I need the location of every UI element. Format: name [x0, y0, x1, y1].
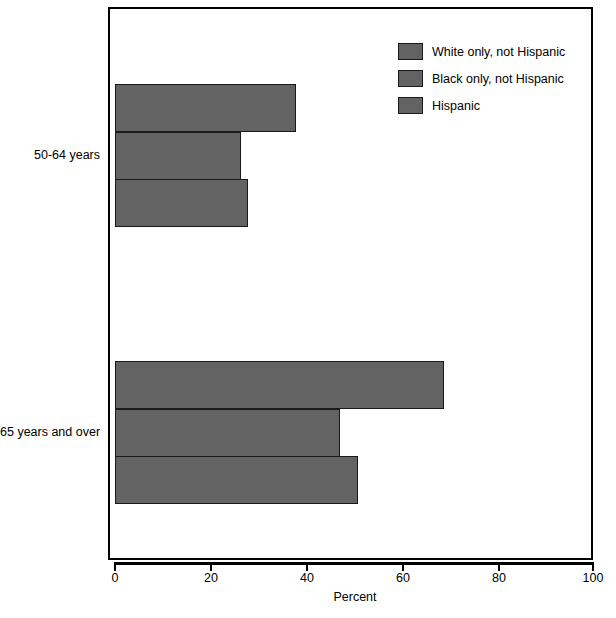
legend-item-hispanic: Hispanic	[398, 92, 598, 119]
bar-50-64-hispanic	[115, 179, 248, 227]
plot-area: White only, not Hispanic Black only, not…	[108, 7, 593, 560]
x-tick-label-0: 0	[95, 571, 135, 585]
x-tick-100	[592, 562, 594, 571]
legend-item-white-only-not-hispanic: White only, not Hispanic	[398, 38, 598, 65]
bar-65-and-over-white-only-not-hispanic	[115, 361, 444, 409]
x-tick-0	[114, 562, 116, 571]
x-tick-label-20: 20	[191, 571, 231, 585]
x-tick-label-60: 60	[383, 571, 423, 585]
bar-50-64-black-only-not-hispanic	[115, 132, 241, 180]
x-tick-label-100: 100	[573, 571, 613, 585]
bar-chart: White only, not Hispanic Black only, not…	[0, 0, 616, 618]
x-tick-60	[402, 562, 404, 571]
x-tick-40	[306, 562, 308, 571]
legend-label-white-only-not-hispanic: White only, not Hispanic	[432, 45, 565, 59]
bar-65-and-over-black-only-not-hispanic	[115, 409, 340, 457]
category-label-65-years-and-over: 65 years and over	[0, 425, 100, 439]
legend-item-black-only-not-hispanic: Black only, not Hispanic	[398, 65, 598, 92]
legend-swatch-white-only-not-hispanic	[398, 43, 423, 60]
bar-50-64-white-only-not-hispanic	[115, 84, 296, 132]
category-label-50-64-years: 50-64 years	[0, 148, 100, 162]
x-tick-label-40: 40	[287, 571, 327, 585]
legend-swatch-black-only-not-hispanic	[398, 70, 423, 87]
legend: White only, not Hispanic Black only, not…	[398, 38, 598, 119]
legend-label-hispanic: Hispanic	[432, 99, 480, 113]
x-axis-line	[114, 562, 594, 565]
x-tick-label-80: 80	[479, 571, 519, 585]
x-tick-80	[498, 562, 500, 571]
legend-label-black-only-not-hispanic: Black only, not Hispanic	[432, 72, 564, 86]
x-axis-title: Percent	[333, 590, 376, 604]
x-tick-20	[210, 562, 212, 571]
x-axis-title-wrap: Percent	[0, 590, 616, 604]
legend-swatch-hispanic	[398, 97, 423, 114]
bar-65-and-over-hispanic	[115, 456, 358, 504]
